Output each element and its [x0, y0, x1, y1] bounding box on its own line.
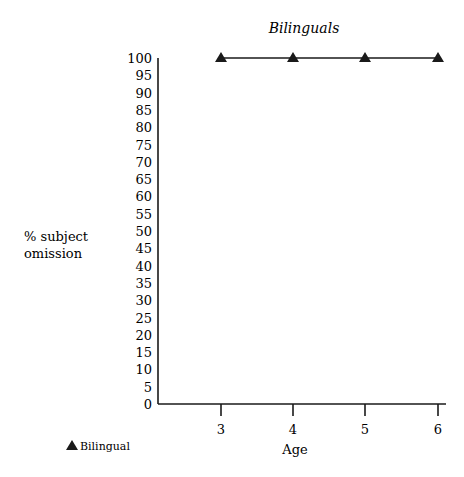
- y-tick-label: 100: [127, 51, 152, 66]
- line-chart: Bilinguals 05101520253035404550556065707…: [0, 0, 464, 477]
- y-axis-label-line-2: omission: [24, 246, 83, 261]
- y-tick-label: 10: [135, 362, 152, 377]
- x-tick-label: 4: [289, 422, 297, 437]
- y-tick-label: 45: [135, 241, 152, 256]
- legend-label: Bilingual: [80, 440, 130, 453]
- chart-title: Bilinguals: [268, 20, 340, 36]
- legend: Bilingual: [66, 440, 130, 453]
- x-axis-label: Age: [281, 442, 308, 457]
- y-tick-label: 80: [135, 120, 152, 135]
- y-tick-label: 60: [135, 189, 152, 204]
- y-tick-label: 5: [144, 380, 152, 395]
- triangle-marker-icon: [66, 440, 78, 450]
- y-tick-label: 85: [135, 103, 152, 118]
- y-tick-label: 30: [135, 293, 152, 308]
- y-tick-label: 50: [135, 224, 152, 239]
- triangle-marker-icon: [215, 52, 227, 62]
- y-tick-label: 95: [135, 68, 152, 83]
- y-tick-label: 90: [135, 86, 152, 101]
- x-axis-ticks: 3456: [217, 404, 442, 437]
- y-tick-label: 70: [135, 155, 152, 170]
- x-tick-label: 6: [434, 422, 442, 437]
- triangle-marker-icon: [432, 52, 444, 62]
- y-tick-label: 25: [135, 311, 152, 326]
- x-tick-label: 5: [361, 422, 369, 437]
- y-tick-label: 20: [135, 328, 152, 343]
- triangle-marker-icon: [359, 52, 371, 62]
- y-tick-label: 75: [135, 138, 152, 153]
- triangle-marker-icon: [287, 52, 299, 62]
- y-tick-label: 15: [135, 345, 152, 360]
- y-tick-label: 35: [135, 276, 152, 291]
- y-axis-ticks: 0510152025303540455055606570758085909510…: [127, 51, 152, 412]
- y-axis-label-line-1: % subject: [24, 229, 89, 244]
- y-tick-label: 55: [135, 207, 152, 222]
- series-bilingual: [215, 52, 444, 62]
- y-tick-label: 65: [135, 172, 152, 187]
- y-tick-label: 40: [135, 259, 152, 274]
- x-tick-label: 3: [217, 422, 225, 437]
- y-tick-label: 0: [144, 397, 152, 412]
